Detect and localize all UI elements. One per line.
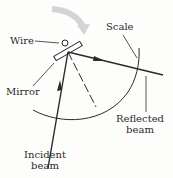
rotation-arrow-icon (52, 9, 90, 35)
wire-leader (35, 41, 59, 43)
reflected-label-line1: Reflected (116, 113, 164, 124)
diagram-canvas: Wire Mirror Scale Reflected beam Inciden… (0, 0, 173, 178)
incident-label-line1: Incident (24, 149, 66, 160)
wire-icon (62, 40, 68, 46)
reflected-label-line2: beam (116, 124, 164, 135)
mirror-label: Mirror (6, 86, 40, 97)
scale-arc (33, 48, 139, 120)
incident-arrow-icon (57, 80, 62, 91)
mirror-leader (33, 63, 54, 86)
incident-label-line2: beam (24, 160, 66, 171)
scale-leader (123, 35, 137, 58)
normal-line (68, 52, 96, 107)
wire-label: Wire (10, 35, 34, 46)
reflected-beam (68, 52, 163, 75)
reflected-arrow-icon (93, 56, 105, 61)
scale-label: Scale (106, 21, 134, 32)
reflected-beam-label: Reflected beam (116, 113, 164, 135)
incident-beam-label: Incident beam (24, 149, 66, 171)
